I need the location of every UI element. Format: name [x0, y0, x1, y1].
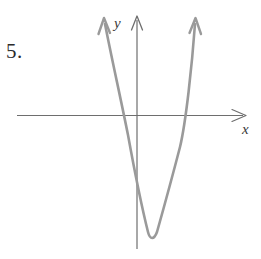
graph-figure: 5. y x: [0, 0, 261, 259]
x-axis: [17, 110, 246, 122]
x-axis-label: x: [241, 121, 249, 137]
y-axis: [132, 16, 143, 249]
coordinate-plane-graph: y x: [0, 0, 261, 259]
y-axis-label: y: [112, 15, 121, 31]
parabola-curve: [99, 18, 202, 238]
parabola-path: [105, 24, 195, 238]
